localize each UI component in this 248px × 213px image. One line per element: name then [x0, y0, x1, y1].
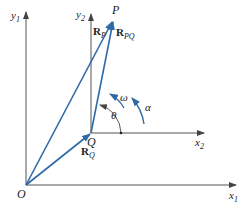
omega-label: ω	[120, 92, 128, 103]
vector-rp-label: RP	[93, 26, 106, 40]
point-p-label: P	[112, 4, 119, 16]
point-o-label: O	[17, 188, 26, 200]
y2-axis-label: y2	[76, 9, 85, 23]
theta-label: θ	[111, 110, 116, 121]
vector-rpq-label: RPQ	[116, 27, 135, 41]
alpha-arc	[132, 98, 144, 124]
x2-axis-label: x2	[195, 137, 204, 151]
theta-arc-tick	[120, 132, 123, 135]
vector-rp	[26, 22, 112, 185]
alpha-label: α	[145, 102, 151, 113]
x1-axis-label: x1	[229, 190, 238, 204]
kinematics-diagram: y1 y2 x2 x1 P Q O RP RPQ RQ θ ω α	[0, 0, 248, 213]
y1-axis-label: y1	[11, 10, 20, 24]
vector-rq-label: RQ	[81, 146, 95, 160]
